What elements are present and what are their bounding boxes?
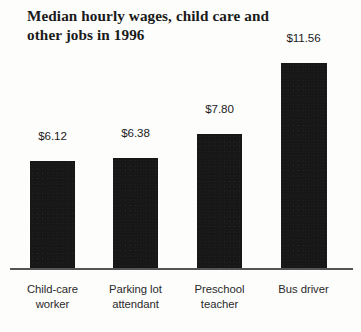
category-label-child-care-worker: Child-care worker: [12, 282, 93, 311]
bar-value-bus-driver: $11.56: [273, 31, 334, 44]
bar-value-child-care-worker: $6.12: [22, 129, 83, 142]
bar-value-preschool-teacher: $7.80: [189, 102, 250, 115]
bar-chart: Median hourly wages, child care and othe…: [0, 0, 361, 332]
category-label-bus-driver: Bus driver: [263, 282, 344, 297]
bar-preschool-teacher: [197, 134, 242, 268]
category-label-parking-lot-attendant: Parking lot attendant: [95, 282, 176, 311]
bar-value-parking-lot-attendant: $6.38: [105, 126, 166, 139]
bar-child-care-worker: [30, 161, 75, 268]
category-label-preschool-teacher: Preschool teacher: [179, 282, 260, 311]
bar-bus-driver: [281, 63, 327, 268]
x-axis-baseline: [10, 268, 353, 270]
bar-parking-lot-attendant: [113, 158, 158, 268]
plot-area: $6.12 Child-care worker $6.38 Parking lo…: [0, 0, 361, 332]
